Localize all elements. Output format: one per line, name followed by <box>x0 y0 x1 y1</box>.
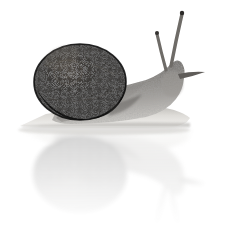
snail-photograph: Grayscale photograph of a garden snail w… <box>0 0 234 227</box>
snail-scene <box>0 0 234 227</box>
